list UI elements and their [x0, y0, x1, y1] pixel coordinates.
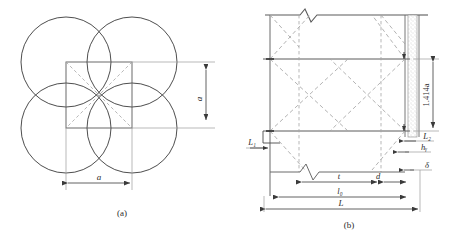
panel-a-caption: (a) [117, 208, 127, 218]
figure-canvas: a a (a) [0, 0, 455, 236]
dim-label-L1: L₁ [247, 137, 256, 147]
figure-background [0, 0, 455, 236]
dim-label-hy: hᵧ [421, 142, 427, 152]
dim-label-horizontal-a: a [97, 172, 102, 182]
dim-label-L2: L₂ [422, 131, 431, 141]
dim-label-vertical-a: a [194, 96, 204, 101]
panel-b-caption: (b) [344, 220, 355, 230]
dim-label-l0: l₀ [337, 186, 342, 196]
dim-label-1414a: 1.414a [421, 83, 431, 106]
concrete-column-hatch [408, 15, 417, 137]
engineering-figure: a a (a) [0, 0, 455, 236]
dim-label-L: L [337, 198, 343, 208]
